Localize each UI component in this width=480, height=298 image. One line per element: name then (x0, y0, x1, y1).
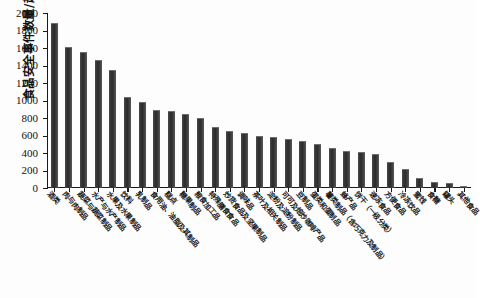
bar (197, 118, 204, 188)
bar (153, 110, 160, 188)
y-tick-200: 200 (43, 171, 48, 172)
y-tick-0: 0 (43, 188, 48, 189)
y-tick-label-400: 400 (22, 146, 39, 160)
x-axis-label: 酒类 (46, 190, 61, 206)
y-tick-label-1800: 1800 (16, 23, 38, 37)
bar (343, 151, 350, 188)
bar (299, 141, 306, 188)
y-tick-label-600: 600 (22, 128, 39, 142)
bar (314, 144, 321, 188)
bar (168, 111, 175, 188)
bar (416, 178, 423, 188)
bar (285, 139, 292, 188)
y-tick-600: 600 (43, 136, 48, 137)
y-tick-label-1000: 1000 (16, 93, 38, 107)
x-axis-label: 罐头 (441, 190, 456, 206)
bar (387, 162, 394, 188)
bar (51, 23, 58, 188)
plot-area: 0200400600800100012001400160018002000 (47, 13, 471, 188)
bar (358, 152, 365, 188)
y-tick-1400: 1400 (43, 66, 48, 67)
x-axis-label: 食糖 (426, 190, 441, 206)
y-tick-label-200: 200 (22, 163, 39, 177)
bar (65, 47, 72, 188)
bar (95, 60, 102, 188)
bar (226, 131, 233, 188)
bar (256, 136, 263, 189)
x-axis-category-labels: 酒类肉与肉制品蔬菜与蔬菜制品水产与水产制品水果及水果制品饮料乳制品食用油、油脂及… (47, 190, 471, 296)
y-tick-label-1400: 1400 (16, 58, 38, 72)
y-tick-label-1600: 1600 (16, 41, 38, 55)
bar (124, 97, 131, 188)
y-tick-2000: 2000 (43, 13, 48, 14)
x-axis-label: 其他食品 (455, 190, 479, 217)
bar (212, 127, 219, 188)
y-tick-1800: 1800 (43, 31, 48, 32)
bar (241, 133, 248, 188)
y-tick-label-800: 800 (22, 111, 39, 125)
y-tick-label-1200: 1200 (16, 76, 38, 90)
y-tick-1600: 1600 (43, 48, 48, 49)
bar (80, 52, 87, 188)
bar (139, 102, 146, 188)
bar (270, 137, 277, 188)
bar (446, 183, 453, 188)
bar (372, 154, 379, 188)
bar (431, 182, 438, 188)
y-tick-400: 400 (43, 153, 48, 154)
y-tick-label-0: 0 (33, 181, 39, 195)
bar (109, 70, 116, 188)
y-tick-800: 800 (43, 118, 48, 119)
y-tick-1000: 1000 (43, 101, 48, 102)
bar (329, 148, 336, 188)
bar (182, 114, 189, 188)
bar (460, 186, 467, 188)
y-tick-1200: 1200 (43, 83, 48, 84)
bar (402, 169, 409, 188)
y-tick-label-2000: 2000 (16, 6, 38, 20)
